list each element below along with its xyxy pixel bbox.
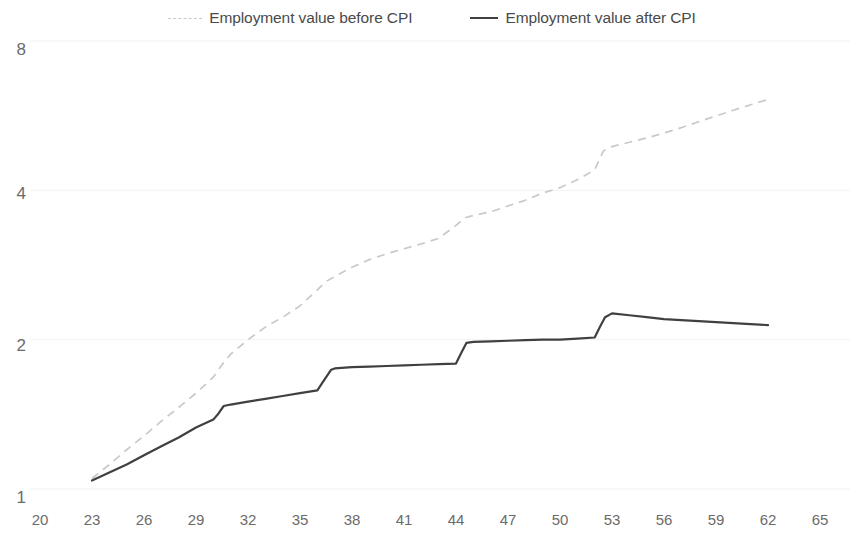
y-axis-tick-label: 4 <box>4 185 26 202</box>
legend-item-before-cpi[interactable]: Employment value before CPI <box>168 9 412 27</box>
y-axis-tick-label: 8 <box>4 41 26 58</box>
dashed-line-icon <box>168 18 202 19</box>
x-axis-tick-label: 50 <box>540 512 580 527</box>
legend-label-after-cpi: Employment value after CPI <box>505 9 695 27</box>
plot-area <box>30 34 850 504</box>
x-axis-tick-label: 44 <box>436 512 476 527</box>
x-axis-tick-label: 47 <box>488 512 528 527</box>
series-line-before-cpi <box>92 99 768 478</box>
series-line-after-cpi <box>92 313 768 480</box>
plot-svg <box>30 34 850 504</box>
x-axis-tick-label: 62 <box>748 512 788 527</box>
legend-label-before-cpi: Employment value before CPI <box>209 9 412 27</box>
x-axis-tick-label: 41 <box>384 512 424 527</box>
x-axis-tick-label: 32 <box>228 512 268 527</box>
y-axis-tick-label: 2 <box>4 337 26 354</box>
x-axis: 20232629323538414447505356596265 <box>0 512 864 538</box>
line-chart: Employment value before CPI Employment v… <box>0 0 864 547</box>
x-axis-tick-label: 29 <box>176 512 216 527</box>
legend-item-after-cpi[interactable]: Employment value after CPI <box>470 9 695 27</box>
chart-legend: Employment value before CPI Employment v… <box>0 4 864 32</box>
y-axis-tick-label: 1 <box>4 489 26 506</box>
x-axis-tick-label: 38 <box>332 512 372 527</box>
x-axis-tick-label: 26 <box>124 512 164 527</box>
solid-line-icon <box>470 17 498 19</box>
x-axis-tick-label: 56 <box>644 512 684 527</box>
gridlines <box>30 41 850 489</box>
x-axis-tick-label: 35 <box>280 512 320 527</box>
x-axis-tick-label: 65 <box>800 512 840 527</box>
x-axis-tick-label: 23 <box>72 512 112 527</box>
x-axis-tick-label: 20 <box>20 512 60 527</box>
x-axis-tick-label: 53 <box>592 512 632 527</box>
x-axis-tick-label: 59 <box>696 512 736 527</box>
